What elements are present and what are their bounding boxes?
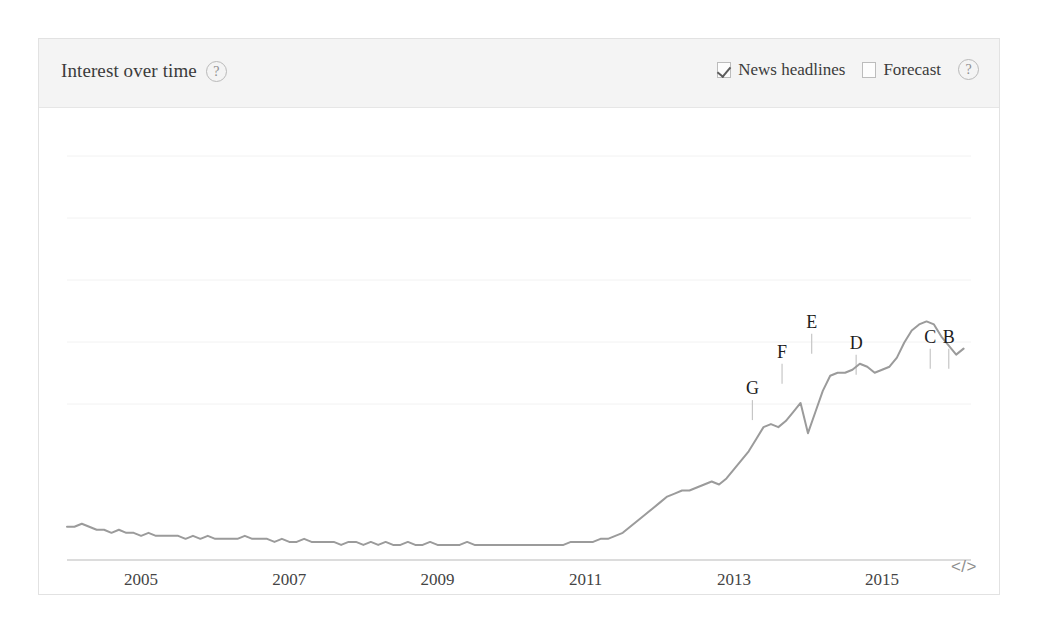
interest-over-time-card: Interest over time? News headlines Forec… [38,38,1000,595]
annotation-tick-marks [752,334,948,420]
header-controls: News headlines Forecast ? [717,59,979,80]
toggle-forecast[interactable]: Forecast [862,60,941,80]
interest-over-time-chart[interactable] [39,108,999,594]
screenshot-root: Interest over time? News headlines Forec… [0,0,1043,644]
checkbox-checked-icon[interactable] [717,62,731,78]
help-circle-icon[interactable]: ? [206,61,227,82]
checkbox-unchecked-icon[interactable] [862,62,876,78]
card-header: Interest over time? News headlines Forec… [39,39,999,108]
card-body: 200520072009201120132015 GFEDCB </> [39,108,999,594]
page-title-text: Interest over time [61,60,197,81]
chart-series-line [67,321,964,544]
toggle-news-headlines[interactable]: News headlines [717,60,845,80]
page-title: Interest over time? [61,60,227,83]
code-embed-icon[interactable]: </> [951,557,977,577]
toggle-forecast-label: Forecast [883,60,941,80]
chart-gridlines [67,108,971,404]
controls-help-circle-icon[interactable]: ? [958,59,979,80]
toggle-news-headlines-label: News headlines [738,60,845,80]
